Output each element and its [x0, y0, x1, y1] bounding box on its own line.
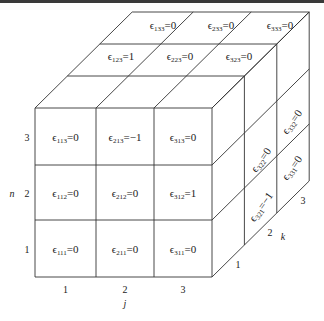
j-axis-label: j [122, 298, 127, 309]
front-cell-eps113: ϵ113=0 [52, 131, 79, 145]
front-cell-eps111: ϵ111=0 [52, 243, 79, 257]
top-cell-eps133: ϵ133=0 [150, 19, 177, 33]
front-cell-eps312: ϵ312=1 [170, 187, 197, 201]
n-axis-label: n [10, 188, 15, 199]
front-cell-eps213: ϵ213=−1 [109, 131, 142, 145]
side-cell-eps321: ϵ321=−1 [246, 190, 276, 225]
k-axis-tick-2: 2 [268, 227, 273, 238]
k-axis-tick-3: 3 [301, 195, 306, 206]
levi-civita-cube-diagram: ϵ113=0ϵ213=−1ϵ313=0ϵ112=0ϵ212=0ϵ312=1ϵ11… [0, 0, 324, 321]
top-cell-eps223: ϵ223=0 [167, 50, 194, 64]
side-cell-eps332: ϵ332=0 [279, 107, 306, 137]
k-axis-label: k [281, 231, 286, 242]
top-cell-eps233: ϵ233=0 [208, 19, 235, 33]
j-axis-tick-3: 3 [181, 284, 186, 295]
k-axis-tick-1: 1 [236, 259, 241, 270]
n-axis-tick-2: 2 [25, 188, 30, 199]
top-cell-eps333: ϵ333=0 [267, 19, 294, 33]
top-cell-eps123: ϵ123=1 [108, 50, 135, 64]
n-axis-tick-1: 1 [25, 244, 30, 255]
front-cell-eps212: ϵ212=0 [112, 187, 139, 201]
side-cell-eps322: ϵ322=0 [248, 145, 275, 175]
front-cell-eps311: ϵ311=0 [170, 243, 197, 257]
front-cell-eps313: ϵ313=0 [170, 131, 197, 145]
front-cell-eps211: ϵ211=0 [112, 243, 139, 257]
side-cell-eps331: ϵ331=0 [279, 153, 306, 183]
cube-labels: ϵ113=0ϵ213=−1ϵ313=0ϵ112=0ϵ212=0ϵ312=1ϵ11… [10, 19, 307, 309]
j-axis-tick-1: 1 [63, 284, 68, 295]
front-cell-eps112: ϵ112=0 [52, 187, 79, 201]
j-axis-tick-2: 2 [123, 284, 128, 295]
top-cell-eps323: ϵ323=0 [226, 50, 253, 64]
n-axis-tick-3: 3 [25, 132, 30, 143]
